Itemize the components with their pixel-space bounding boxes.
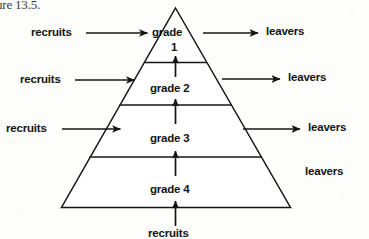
leavers-label-grade-2: leavers bbox=[288, 72, 326, 84]
leavers-label-grade-4: leavers bbox=[305, 166, 343, 178]
figure-caption-fragment: ure 13.5. bbox=[0, 0, 40, 11]
grade-3-label: grade 3 bbox=[150, 133, 190, 145]
leavers-label-grade-3: leavers bbox=[308, 122, 346, 134]
recruits-label-grade-1: recruits bbox=[31, 27, 72, 39]
leavers-label-grade-1: leavers bbox=[266, 26, 304, 38]
recruits-label-grade-2: recruits bbox=[20, 74, 61, 86]
grade-1-label-line2: 1 bbox=[171, 42, 177, 54]
recruits-label-grade-3: recruits bbox=[6, 123, 47, 135]
figure-canvas: ure 13.5. grade 1 grade 2 grade 3 grade … bbox=[0, 0, 369, 239]
recruits-label-bottom: recruits bbox=[148, 228, 189, 239]
grade-2-label: grade 2 bbox=[150, 83, 190, 95]
grade-4-label: grade 4 bbox=[150, 184, 190, 196]
grade-1-label-line1: grade bbox=[152, 27, 182, 39]
